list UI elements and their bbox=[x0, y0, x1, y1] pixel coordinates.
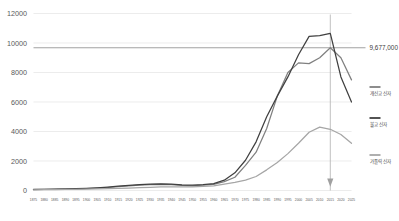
chart-legend: 개신교 신자불교 신자가톨릭 신자 bbox=[370, 87, 392, 165]
x-axis-tick-label: 1900 bbox=[83, 198, 91, 202]
y-axis-tick-label: 2000 bbox=[11, 157, 27, 166]
line-chart: 020004000600080001000012000 187518801885… bbox=[0, 0, 399, 221]
gridlines bbox=[34, 14, 352, 191]
x-axis-tick-label: 1925 bbox=[136, 198, 144, 202]
x-axis-tick-label: 1970 bbox=[231, 198, 239, 202]
down-arrow-head bbox=[327, 179, 333, 187]
x-axis-tick-label: 2025 bbox=[348, 198, 356, 202]
y-axis-tick-label: 6000 bbox=[11, 98, 27, 107]
series-line-개신교 신자 bbox=[34, 48, 352, 190]
x-axis-tick-label: 1965 bbox=[221, 198, 229, 202]
x-axis-tick-label: 1910 bbox=[104, 198, 112, 202]
y-axis-tick-label: 12000 bbox=[7, 9, 27, 18]
x-axis-tick-label: 2005 bbox=[305, 198, 313, 202]
series-line-가톨릭 신자 bbox=[34, 127, 352, 190]
x-axis-tick-label: 1875 bbox=[30, 198, 38, 202]
x-axis-tick-label: 1895 bbox=[72, 198, 80, 202]
y-axis-tick-label: 8000 bbox=[11, 68, 27, 77]
x-axis-tick-label: 1920 bbox=[125, 198, 133, 202]
x-axis-tick-label: 1990 bbox=[274, 198, 282, 202]
x-axis-tick-label: 1930 bbox=[146, 198, 154, 202]
x-axis-tick-labels: 1875188018851890189519001905191019151920… bbox=[30, 198, 356, 202]
x-axis-tick-label: 2020 bbox=[337, 198, 345, 202]
x-axis-tick-label: 1890 bbox=[62, 198, 70, 202]
x-axis-tick-label: 1935 bbox=[157, 198, 165, 202]
x-axis-tick-label: 1915 bbox=[115, 198, 123, 202]
x-axis-tick-label: 1980 bbox=[252, 198, 260, 202]
down-arrow-icon bbox=[327, 179, 333, 187]
x-axis-tick-label: 1885 bbox=[51, 198, 59, 202]
legend-label-개신교 신자: 개신교 신자 bbox=[370, 90, 392, 97]
x-axis-tick-label: 2010 bbox=[316, 198, 324, 202]
y-axis-tick-label: 10000 bbox=[7, 39, 27, 48]
x-axis-tick-label: 2015 bbox=[327, 198, 335, 202]
y-axis-tick-label: 4000 bbox=[11, 127, 27, 136]
legend-label-가톨릭 신자: 가톨릭 신자 bbox=[370, 158, 392, 165]
chart-container: 020004000600080001000012000 187518801885… bbox=[0, 0, 399, 221]
x-axis-tick-label: 2000 bbox=[295, 198, 303, 202]
x-axis-tick-label: 1955 bbox=[199, 198, 207, 202]
legend-label-불교 신자: 불교 신자 bbox=[370, 121, 388, 128]
x-axis-tick-label: 1950 bbox=[189, 198, 197, 202]
series-line-불교 신자 bbox=[34, 33, 352, 189]
x-axis-tick-label: 1905 bbox=[93, 198, 101, 202]
y-axis-tick-labels: 020004000600080001000012000 bbox=[7, 9, 27, 195]
x-axis-tick-label: 1880 bbox=[40, 198, 48, 202]
data-series bbox=[34, 33, 352, 189]
y-axis-tick-label: 0 bbox=[23, 186, 27, 195]
x-axis-tick-label: 1945 bbox=[178, 198, 186, 202]
reference-value-annotation: 9,677,000 bbox=[370, 44, 399, 51]
x-axis-tick-label: 1975 bbox=[242, 198, 250, 202]
x-axis-tick-label: 1995 bbox=[284, 198, 292, 202]
reference-label: 9,677,000 bbox=[370, 44, 399, 51]
x-axis-tick-label: 1960 bbox=[210, 198, 218, 202]
x-axis-tick-label: 1940 bbox=[168, 198, 176, 202]
x-axis-tick-label: 1985 bbox=[263, 198, 271, 202]
